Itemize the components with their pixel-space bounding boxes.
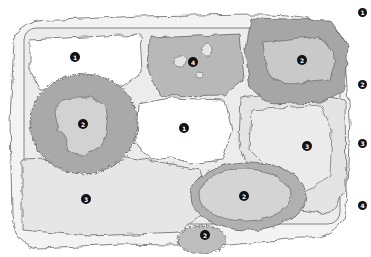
svg-text:1: 1 — [182, 125, 186, 132]
zone-marker-2-bottom-bump: 2 — [200, 230, 210, 240]
legend-marker-4: 4 — [358, 201, 367, 210]
zone-marker-3-bottom-left: 3 — [81, 194, 91, 204]
svg-text:2: 2 — [203, 232, 207, 239]
legend-marker-1: 1 — [358, 8, 367, 17]
svg-text:4: 4 — [191, 59, 195, 66]
svg-text:2: 2 — [81, 121, 85, 128]
zone-marker-2-top-right: 2 — [297, 55, 307, 65]
zone-marker-1-top-left: 1 — [70, 52, 80, 62]
zone-3-bottom-left — [22, 156, 210, 236]
planting-zone-diagram: 1 4 2 2 1 3 3 2 2 — [0, 0, 371, 257]
zone-marker-3-right: 3 — [302, 141, 312, 151]
zone-marker-2-left: 2 — [78, 119, 88, 129]
zone-2-bottom-bump — [176, 224, 224, 252]
legend-marker-3: 3 — [358, 139, 367, 148]
legend: 1 2 3 4 — [352, 0, 371, 257]
zone-2-top-right — [245, 18, 348, 104]
svg-text:2: 2 — [242, 193, 246, 200]
svg-text:1: 1 — [73, 54, 77, 61]
zone-marker-1-center: 1 — [179, 123, 189, 133]
svg-text:3: 3 — [305, 143, 309, 150]
zone-marker-4-top-middle: 4 — [188, 57, 198, 67]
zone-marker-2-bottom-oval: 2 — [239, 191, 249, 201]
svg-text:2: 2 — [300, 57, 304, 64]
svg-text:3: 3 — [84, 196, 88, 203]
legend-marker-2: 2 — [358, 80, 367, 89]
